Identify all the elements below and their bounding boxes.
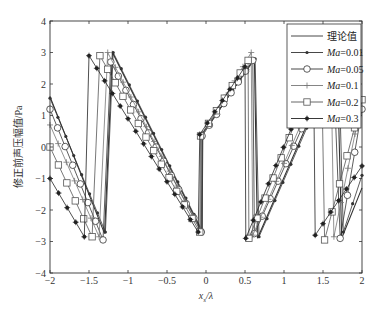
plus-marker: [55, 141, 61, 147]
square-marker: [143, 134, 149, 140]
dot-marker: [273, 199, 276, 202]
circle-marker: [100, 237, 107, 244]
square-marker: [97, 52, 103, 58]
star-marker: [125, 116, 131, 122]
dot-marker: [64, 135, 67, 138]
star-marker: [280, 144, 286, 150]
square-marker: [89, 234, 95, 240]
chart-canvas: −2−1.5−1−0.500.511.52−4−3−2−101234 修正前声压…: [0, 0, 383, 317]
square-marker: [120, 93, 126, 99]
square-marker: [55, 162, 61, 168]
legend-label: Ma=0.2: [326, 97, 358, 108]
dot-marker: [104, 230, 107, 233]
star-marker: [86, 53, 92, 59]
star-marker: [64, 205, 70, 211]
legend-label: 理论值: [327, 30, 357, 42]
dot-marker: [265, 217, 268, 220]
x-axis-label: xs/λ: [198, 290, 214, 304]
y-tick-label: 1: [41, 110, 46, 121]
dot-marker: [342, 230, 345, 233]
circle-marker: [54, 125, 61, 132]
x-tick-label: 0.5: [239, 275, 252, 286]
square-marker: [245, 57, 251, 63]
x-tick-label: 1: [282, 275, 287, 286]
y-tick-label: 4: [41, 16, 46, 27]
square-marker: [72, 198, 78, 204]
square-marker: [336, 181, 342, 187]
circle-marker: [108, 59, 115, 66]
circle-marker: [351, 149, 358, 156]
x-tick-label: 2: [360, 275, 365, 286]
dot-marker: [88, 192, 91, 195]
plus-marker: [120, 79, 126, 85]
y-tick-label: −3: [35, 236, 46, 247]
dot-marker: [289, 163, 292, 166]
dot-marker: [128, 83, 131, 86]
plus-marker: [331, 234, 337, 240]
circle-marker: [337, 235, 344, 242]
circle-marker: [304, 66, 311, 73]
circle-marker: [69, 162, 76, 169]
star-marker: [351, 174, 357, 180]
dot-marker: [257, 235, 260, 238]
dot-marker: [112, 51, 115, 54]
plus-marker: [345, 165, 351, 171]
dot-marker: [297, 145, 300, 148]
legend-label: Ma=0.1: [326, 80, 358, 91]
plus-marker: [105, 50, 111, 56]
square-marker: [344, 153, 350, 159]
star-marker: [273, 163, 279, 169]
circle-marker: [77, 181, 84, 188]
star-marker: [265, 181, 271, 187]
y-tick-label: −1: [35, 173, 46, 184]
y-tick-label: 2: [41, 79, 46, 90]
legend: 理论值Ma=0.01Ma=0.05Ma=0.1Ma=0.2Ma=0.3: [287, 24, 363, 128]
square-marker: [304, 99, 310, 105]
y-tick-label: −4: [35, 268, 46, 279]
star-marker: [312, 232, 318, 238]
x-tick-label: 1.5: [317, 275, 330, 286]
x-tick-label: 0: [204, 275, 209, 286]
dot-marker: [351, 202, 354, 205]
dot-marker: [281, 181, 284, 184]
y-tick-label: 0: [41, 142, 46, 153]
square-marker: [64, 180, 70, 186]
plus-marker: [248, 50, 254, 56]
y-axis-label: 修正前声压幅值/Pa: [12, 105, 24, 188]
square-marker: [80, 216, 86, 222]
legend-label: Ma=0.05: [326, 64, 363, 75]
square-marker: [127, 107, 133, 113]
x-tick-label: −2: [45, 275, 56, 286]
star-marker: [141, 141, 147, 147]
dot-marker: [96, 211, 99, 214]
dot-marker: [305, 51, 308, 54]
square-marker: [112, 80, 118, 86]
star-marker: [320, 221, 326, 227]
dot-marker: [152, 132, 155, 135]
square-marker: [321, 237, 327, 243]
dot-marker: [168, 164, 171, 167]
plus-marker: [72, 178, 78, 184]
plus-marker: [63, 159, 69, 165]
dot-marker: [80, 173, 83, 176]
plus-marker: [112, 64, 118, 70]
star-marker: [56, 190, 62, 196]
square-marker: [150, 147, 156, 153]
star-marker: [117, 103, 123, 109]
star-marker: [148, 153, 154, 159]
dot-marker: [120, 67, 123, 70]
square-marker: [104, 66, 110, 72]
legend-label: Ma=0.3: [326, 113, 358, 124]
star-marker: [81, 234, 87, 240]
star-marker: [73, 219, 79, 225]
star-marker: [133, 128, 139, 134]
x-tick-label: −1: [123, 275, 134, 286]
x-tick-label: −1.5: [80, 275, 98, 286]
y-tick-label: 3: [41, 47, 46, 58]
dot-marker: [176, 180, 179, 183]
legend-label: Ma=0.01: [326, 47, 363, 58]
dot-marker: [56, 116, 59, 119]
y-tick-label: −2: [35, 205, 46, 216]
circle-marker: [62, 143, 69, 150]
dot-marker: [72, 154, 75, 157]
